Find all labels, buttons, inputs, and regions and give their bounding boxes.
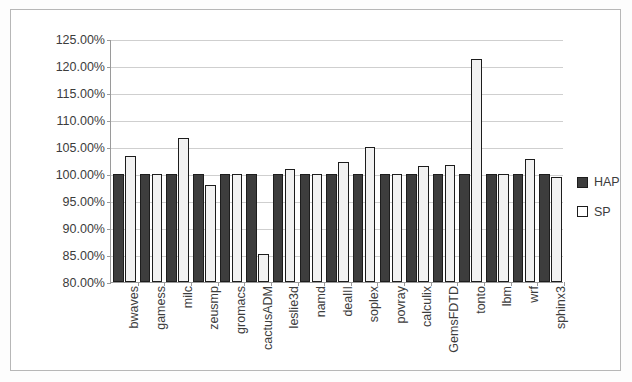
bar-hap-tonto bbox=[459, 174, 470, 282]
y-axis-tick bbox=[107, 202, 111, 203]
bar-hap-milc bbox=[166, 174, 177, 282]
bar-group bbox=[431, 40, 458, 282]
y-axis-tick-label: 120.00% bbox=[23, 61, 105, 74]
bar-hap-lbm bbox=[486, 174, 497, 282]
bar-group bbox=[457, 40, 484, 282]
bar-hap-povray bbox=[380, 174, 391, 282]
legend-item-sp: SP bbox=[577, 206, 629, 219]
y-axis-tick bbox=[107, 121, 111, 122]
y-axis-tick-label: 125.00% bbox=[23, 34, 105, 47]
bar-hap-GemsFDTD bbox=[433, 174, 444, 282]
bar-group bbox=[191, 40, 218, 282]
bar-hap-soplex bbox=[353, 174, 364, 282]
x-axis-tick-label: soplex bbox=[368, 286, 381, 322]
bars-layer bbox=[111, 40, 563, 282]
legend-label-hap: HAP bbox=[594, 176, 620, 189]
bar-sp-sphinx3 bbox=[551, 177, 562, 282]
bar-group bbox=[351, 40, 378, 282]
bar-sp-gromacs bbox=[232, 174, 243, 282]
bar-sp-tonto bbox=[471, 59, 482, 282]
x-axis-tick-label: povray bbox=[395, 286, 408, 324]
legend-swatch-sp-icon bbox=[577, 206, 588, 217]
x-axis-tick-label: gamess bbox=[155, 286, 168, 330]
bar-group bbox=[244, 40, 271, 282]
y-axis-labels: 125.00%120.00%115.00%110.00%105.00%100.0… bbox=[23, 40, 105, 283]
legend-label-sp: SP bbox=[594, 206, 611, 219]
y-axis-tick bbox=[107, 229, 111, 230]
y-axis-tick bbox=[107, 256, 111, 257]
x-axis-tick-label: tonto bbox=[475, 286, 488, 314]
bar-sp-gamess bbox=[152, 174, 163, 282]
bar-hap-calculix bbox=[406, 174, 417, 282]
plot-area bbox=[110, 40, 563, 283]
bar-hap-leslie3d bbox=[273, 174, 284, 282]
bar-group bbox=[298, 40, 325, 282]
bar-hap-zeusmp bbox=[193, 174, 204, 282]
bar-sp-leslie3d bbox=[285, 169, 296, 282]
x-axis-tick-label: lbm bbox=[501, 286, 514, 306]
legend-item-hap: HAP bbox=[577, 176, 629, 189]
x-axis-tick-label: cactusADM bbox=[262, 286, 275, 350]
bar-sp-cactusADM bbox=[258, 254, 269, 282]
y-axis-tick bbox=[107, 40, 111, 41]
bar-sp-povray bbox=[392, 174, 403, 282]
y-axis-tick bbox=[107, 94, 111, 95]
bar-group bbox=[484, 40, 511, 282]
bar-group bbox=[271, 40, 298, 282]
y-axis-tick bbox=[107, 283, 111, 284]
bar-hap-cactusADM bbox=[246, 174, 257, 282]
y-axis-tick-label: 100.00% bbox=[23, 169, 105, 182]
y-axis-tick-label: 95.00% bbox=[23, 196, 105, 209]
bar-hap-gamess bbox=[140, 174, 151, 282]
x-axis-tick-label: zeusmp bbox=[208, 286, 221, 330]
bar-sp-calculix bbox=[418, 166, 429, 282]
y-axis-tick bbox=[107, 148, 111, 149]
bar-sp-soplex bbox=[365, 147, 376, 282]
x-axis-tick-label: leslie3d bbox=[288, 286, 301, 328]
x-axis-tick-label: milc bbox=[182, 286, 195, 308]
x-axis-tick-label: bwaves bbox=[128, 286, 141, 328]
x-axis-tick-label: GemsFDTD bbox=[448, 286, 461, 353]
bar-sp-lbm bbox=[498, 174, 509, 282]
bar-hap-sphinx3 bbox=[539, 174, 550, 282]
bar-chart: 125.00%120.00%115.00%110.00%105.00%100.0… bbox=[0, 0, 632, 382]
bar-group bbox=[164, 40, 191, 282]
chart-frame: 125.00%120.00%115.00%110.00%105.00%100.0… bbox=[10, 9, 621, 371]
chart-legend: HAP SP bbox=[577, 176, 629, 235]
bar-sp-zeusmp bbox=[205, 185, 216, 282]
x-axis-tick-label: namd bbox=[315, 286, 328, 317]
bar-sp-dealII bbox=[338, 162, 349, 282]
y-axis-tick-label: 85.00% bbox=[23, 250, 105, 263]
bar-group bbox=[111, 40, 138, 282]
bar-hap-gromacs bbox=[220, 174, 231, 282]
bar-hap-bwaves bbox=[113, 174, 124, 282]
x-axis-tick-label: calculix bbox=[421, 286, 434, 327]
bar-group bbox=[324, 40, 351, 282]
bar-sp-wrf bbox=[525, 159, 536, 282]
bar-group bbox=[218, 40, 245, 282]
legend-swatch-hap-icon bbox=[577, 177, 588, 188]
x-axis-tick-label: sphinx3 bbox=[555, 286, 568, 329]
y-axis-tick-label: 115.00% bbox=[23, 88, 105, 101]
bar-sp-bwaves bbox=[125, 156, 136, 282]
bar-sp-milc bbox=[178, 138, 189, 282]
bar-group bbox=[511, 40, 538, 282]
bar-hap-namd bbox=[300, 174, 311, 282]
y-axis-tick-label: 110.00% bbox=[23, 115, 105, 128]
bar-group bbox=[377, 40, 404, 282]
y-axis-tick-label: 80.00% bbox=[23, 277, 105, 290]
x-axis-labels: bwavesgamessmilczeusmpgromacscactusADMle… bbox=[110, 286, 563, 382]
y-axis-tick-label: 105.00% bbox=[23, 142, 105, 155]
x-axis-tick-label: dealII bbox=[342, 286, 355, 317]
bar-hap-dealII bbox=[326, 174, 337, 282]
bar-group bbox=[138, 40, 165, 282]
y-axis-tick-label: 90.00% bbox=[23, 223, 105, 236]
y-axis-tick bbox=[107, 175, 111, 176]
bar-hap-wrf bbox=[513, 174, 524, 282]
x-axis-tick-label: wrf bbox=[528, 286, 541, 303]
bar-group bbox=[537, 40, 564, 282]
bar-sp-GemsFDTD bbox=[445, 165, 456, 282]
y-axis-tick bbox=[107, 67, 111, 68]
bar-group bbox=[404, 40, 431, 282]
x-axis-tick-label: gromacs bbox=[235, 286, 248, 334]
